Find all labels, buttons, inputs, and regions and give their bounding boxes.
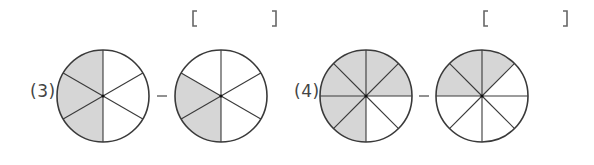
answer-bracket-4[interactable] (484, 11, 567, 26)
answer-bracket-3[interactable] (193, 11, 276, 26)
fraction-circle-4-right (436, 50, 528, 142)
fraction-circle-3-right (175, 50, 267, 142)
shaded-region (57, 50, 103, 142)
fraction-circle-4-left (320, 50, 412, 142)
fraction-figures (0, 0, 594, 165)
fraction-circle-3-left (57, 50, 149, 142)
